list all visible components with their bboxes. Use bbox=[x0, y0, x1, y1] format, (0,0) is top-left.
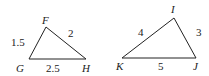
vertex-label-f: F bbox=[41, 14, 49, 26]
side-label-ik: 4 bbox=[138, 26, 144, 38]
side-label-gh: 2.5 bbox=[46, 62, 60, 74]
triangle-ijk: I J K 4 3 5 bbox=[115, 3, 202, 72]
triangle-fgh-shape bbox=[29, 27, 86, 59]
vertex-label-k: K bbox=[115, 60, 124, 72]
triangle-ijk-shape bbox=[122, 18, 196, 58]
side-label-ij: 3 bbox=[196, 26, 202, 38]
triangle-fgh: F G H 1.5 2 2.5 bbox=[11, 14, 91, 74]
side-label-kj: 5 bbox=[158, 60, 164, 72]
triangles-diagram: F G H 1.5 2 2.5 I J K 4 3 5 bbox=[0, 0, 209, 76]
vertex-label-g: G bbox=[16, 62, 24, 74]
side-label-fg: 1.5 bbox=[11, 36, 25, 48]
vertex-label-j: J bbox=[193, 60, 199, 72]
side-label-fh: 2 bbox=[68, 27, 74, 39]
vertex-label-i: I bbox=[170, 3, 176, 15]
vertex-label-h: H bbox=[81, 62, 91, 74]
